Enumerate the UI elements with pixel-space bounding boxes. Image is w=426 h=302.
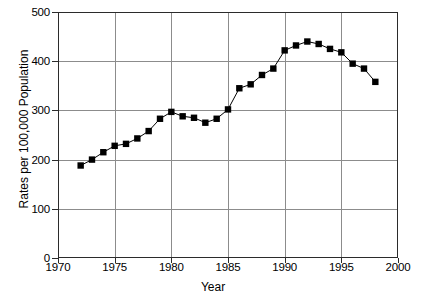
gridline-vertical <box>285 13 286 257</box>
x-axis-tick-mark <box>58 258 59 263</box>
chart-figure: 0100200300400500 19701975198019851990199… <box>0 0 426 302</box>
y-axis-tick-mark <box>52 110 58 111</box>
x-axis-tick-mark <box>341 258 342 263</box>
y-axis-title: Rates per 100,000 Population <box>17 9 31 249</box>
y-axis-tick-mark <box>52 258 58 259</box>
gridline-vertical <box>171 13 172 257</box>
x-axis-tick-label: 1985 <box>205 262 251 273</box>
x-axis-tick-label: 1970 <box>35 262 81 273</box>
y-axis-tick-mark <box>52 160 58 161</box>
gridline-horizontal <box>59 209 397 210</box>
y-axis-tick-mark <box>52 209 58 210</box>
gridline-horizontal <box>59 110 397 111</box>
gridline-horizontal <box>59 61 397 62</box>
gridline-horizontal <box>59 160 397 161</box>
x-axis-tick-label: 1980 <box>148 262 194 273</box>
x-axis-tick-label: 1990 <box>262 262 308 273</box>
gridline-vertical <box>341 13 342 257</box>
plot-area <box>58 12 398 258</box>
x-axis-tick-mark <box>285 258 286 263</box>
gridline-vertical <box>228 13 229 257</box>
x-axis-tick-mark <box>171 258 172 263</box>
gridline-vertical <box>115 13 116 257</box>
y-axis-tick-mark <box>52 61 58 62</box>
x-axis-tick-mark <box>228 258 229 263</box>
x-axis-tick-label: 1975 <box>92 262 138 273</box>
x-axis-title: Year <box>0 280 426 294</box>
x-axis-tick-mark <box>398 258 399 263</box>
x-axis-tick-mark <box>115 258 116 263</box>
y-axis-tick-mark <box>52 12 58 13</box>
x-axis-tick-label: 2000 <box>375 262 421 273</box>
x-axis-tick-label: 1995 <box>318 262 364 273</box>
